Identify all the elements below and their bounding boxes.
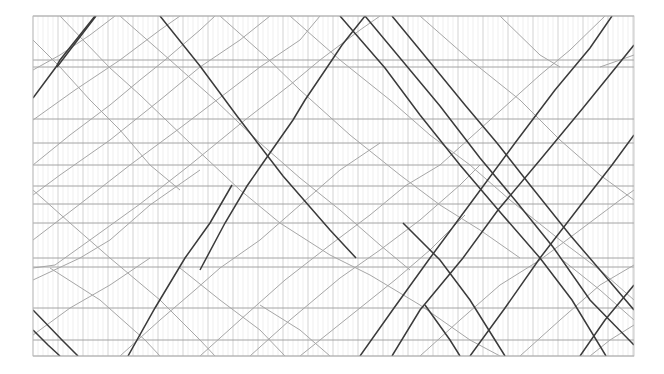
train-graph-diagram bbox=[0, 0, 664, 374]
background bbox=[0, 0, 664, 374]
